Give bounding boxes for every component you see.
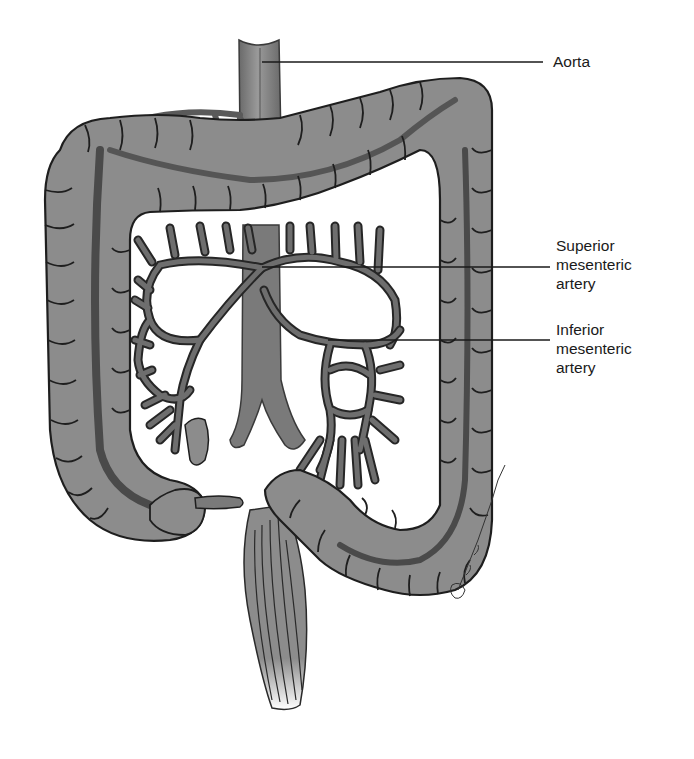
aorta-label: Aorta	[553, 52, 590, 71]
superior-mesenteric-artery-label: Superior mesenteric artery	[556, 236, 632, 293]
appendix	[195, 496, 243, 509]
inferior-mesenteric-arcades-fill	[264, 290, 400, 485]
inferior-mesenteric-artery-label: Inferior mesenteric artery	[556, 320, 632, 377]
colon-blood-supply-diagram	[0, 0, 694, 759]
